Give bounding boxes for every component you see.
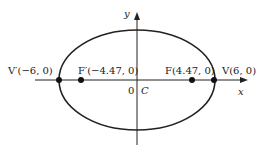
center-label: C (141, 85, 149, 96)
vertex-left-label: V′(−6, 0) (7, 65, 53, 76)
focus-left-point (78, 77, 84, 83)
vertex-right-label: V(6, 0) (221, 65, 256, 76)
y-axis-label: y (123, 8, 130, 19)
vertex-left-point (56, 77, 62, 83)
y-axis-arrow-icon (134, 12, 140, 20)
focus-right-point (189, 77, 195, 83)
ellipse-diagram: y x 0 C V′(−6, 0) F′(−4.47, 0) F(4.47, 0… (0, 0, 263, 153)
focus-right-label: F(4.47, 0) (165, 65, 215, 76)
x-axis-arrow-icon (240, 77, 248, 83)
x-axis-label: x (238, 86, 244, 97)
origin-label: 0 (128, 85, 134, 96)
vertex-right-point (211, 77, 217, 83)
focus-left-label: F′(−4.47, 0) (78, 65, 138, 76)
